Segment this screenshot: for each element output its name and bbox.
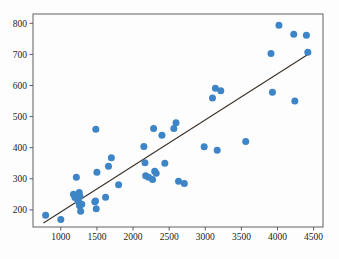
data-point [102, 194, 109, 201]
x-tick-label: 1000 [51, 232, 70, 242]
x-tick-label: 4500 [304, 232, 323, 242]
data-point [149, 176, 156, 183]
x-tick-label: 3000 [196, 232, 215, 242]
y-tick-label: 700 [13, 50, 28, 60]
y-tick-label: 200 [13, 205, 28, 215]
data-point [275, 22, 282, 29]
data-point [201, 143, 208, 150]
x-axis-ticks: 10001500200025003000350040004500 [51, 227, 323, 242]
y-tick-label: 400 [13, 143, 28, 153]
data-point [161, 160, 168, 167]
y-tick-label: 600 [13, 81, 28, 91]
data-point [304, 49, 311, 56]
data-point [57, 216, 64, 223]
data-point [209, 94, 216, 101]
x-tick-label: 4000 [268, 232, 287, 242]
plot-canvas: 200300400500600700800 100015002000250030… [0, 0, 339, 259]
data-point [93, 169, 100, 176]
y-tick-label: 300 [13, 174, 28, 184]
data-point [181, 180, 188, 187]
data-point [105, 163, 112, 170]
data-point [217, 87, 224, 94]
x-tick-label: 2000 [124, 232, 143, 242]
data-point [78, 201, 85, 208]
scatter-plot-figure: 200300400500600700800 100015002000250030… [0, 0, 339, 259]
data-point [303, 32, 310, 39]
data-point [158, 132, 165, 139]
data-point [290, 31, 297, 38]
data-point [242, 138, 249, 145]
data-points [42, 22, 311, 223]
data-point [291, 98, 298, 105]
data-point [140, 143, 147, 150]
x-tick-label: 3500 [232, 232, 251, 242]
data-point [269, 89, 276, 96]
data-point [214, 147, 221, 154]
y-tick-label: 500 [13, 112, 28, 122]
x-tick-label: 2500 [160, 232, 179, 242]
data-point [173, 119, 180, 126]
data-point [93, 205, 100, 212]
data-point [42, 212, 49, 219]
data-point [92, 126, 99, 133]
data-point [73, 174, 80, 181]
x-tick-label: 1500 [87, 232, 106, 242]
data-point [115, 181, 122, 188]
data-point [141, 159, 148, 166]
data-point [153, 170, 160, 177]
data-point [150, 125, 157, 132]
y-axis-ticks: 200300400500600700800 [13, 19, 33, 216]
data-point [267, 50, 274, 57]
data-point [76, 193, 83, 200]
data-point [92, 197, 99, 204]
data-point [108, 154, 115, 161]
data-point [77, 208, 84, 215]
y-tick-label: 800 [13, 19, 28, 29]
